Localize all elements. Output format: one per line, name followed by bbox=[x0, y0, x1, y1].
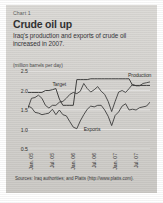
series-lines bbox=[28, 79, 150, 129]
series-label-production: Production bbox=[128, 72, 151, 78]
chart-svg bbox=[28, 71, 150, 149]
chart-number-label: Chart 1 bbox=[13, 10, 31, 16]
chart-panel: Chart 1 Crude oil up Iraq's production a… bbox=[6, 5, 157, 193]
x-axis-tick-labels: Jan. 05Jul. 05Jan. 06Jul. 06Jan. 07Jul. … bbox=[28, 151, 150, 177]
x-axis-tick-label: Jan. 07 bbox=[112, 153, 118, 170]
series-label-target: Target bbox=[52, 81, 66, 87]
chart-subtitle: Iraq's production and exports of crude o… bbox=[13, 32, 149, 47]
y-axis-tick-1-5: 1.5 bbox=[21, 107, 28, 113]
page-title: Crude oil up bbox=[13, 18, 72, 30]
y-axis-tick-1: 1.0 bbox=[21, 127, 28, 133]
x-axis-tick-label: Jan. 06 bbox=[70, 153, 76, 170]
y-axis-tick-0-5: 0.5 bbox=[21, 146, 28, 152]
line-chart-plot: Target Production Exports bbox=[28, 71, 150, 149]
y-axis-tick-2-5: 2.5 bbox=[21, 68, 28, 74]
x-axis-tick-label: Jul. 07 bbox=[133, 153, 139, 168]
gridlines bbox=[28, 71, 150, 149]
x-axis-tick-label: Jan. 05 bbox=[28, 153, 34, 170]
x-axis-tick-label: Jul. 05 bbox=[49, 153, 55, 168]
y-axis-tick-2: 2.0 bbox=[21, 88, 28, 94]
y-axis-tick-labels: 2.52.01.51.00.5 bbox=[10, 67, 28, 153]
source-note: Sources: Iraq authorities; and Platts (h… bbox=[15, 176, 155, 182]
series-label-exports: Exports bbox=[84, 126, 101, 132]
x-axis-tick-label: Jul. 06 bbox=[91, 153, 97, 168]
